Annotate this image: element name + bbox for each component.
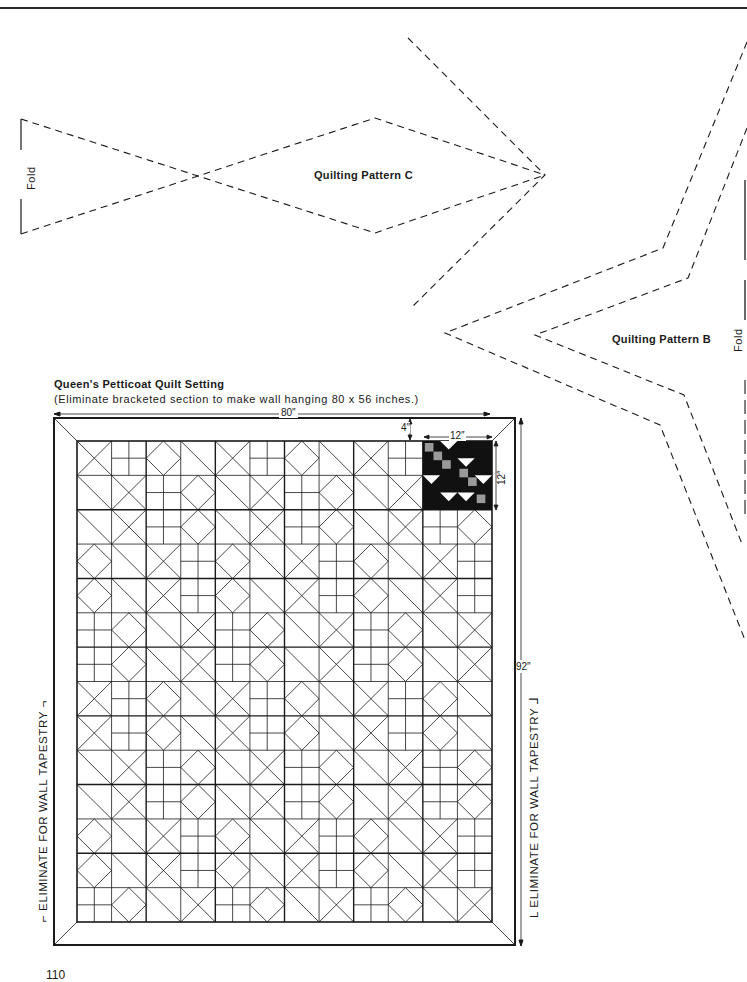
dimension-block-height: 12″ (496, 470, 507, 485)
bracket-left-close-icon: ¬ (37, 700, 49, 711)
dimension-border: 4″ (401, 422, 410, 433)
bracket-right-open-icon: L (528, 908, 540, 918)
bracket-left-label: ⌐ ELIMINATE FOR WALL TAPESTRY ¬ (37, 700, 49, 922)
page-number: 110 (46, 968, 65, 982)
dimension-height: 92″ (516, 660, 531, 673)
bracket-left-open-icon: ⌐ (37, 911, 49, 922)
bracket-right-label: L ELIMINATE FOR WALL TAPESTRY ⅃ (527, 697, 541, 918)
dimension-width: 80″ (279, 407, 298, 418)
bracket-right-close-icon: ⅃ (528, 697, 540, 708)
dimension-block-width: 12″ (449, 430, 466, 441)
